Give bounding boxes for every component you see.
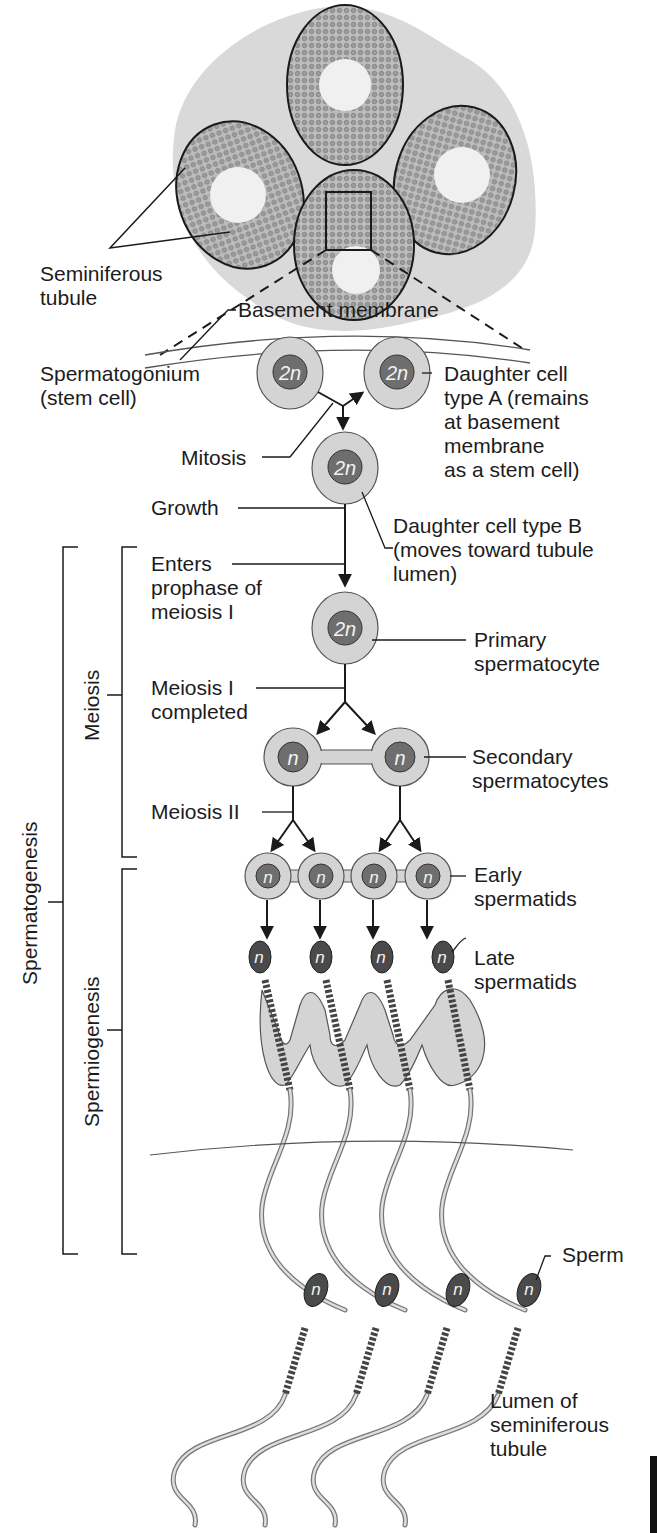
brackets — [48, 547, 137, 1254]
svg-text:n: n — [394, 747, 405, 769]
svg-text:n: n — [423, 868, 432, 887]
svg-text:n: n — [316, 868, 325, 887]
edge-bar — [650, 1456, 657, 1533]
label-daughter-cell-b: Daughter cell type B (moves toward tubul… — [393, 514, 594, 586]
label-early-spermatids: Early spermatids — [474, 863, 577, 911]
svg-text:n: n — [382, 1280, 391, 1299]
secondary-spermatocytes: n n — [264, 728, 429, 786]
svg-text:2n: 2n — [333, 618, 356, 640]
svg-text:2n: 2n — [333, 457, 356, 479]
label-secondary-spermatocytes: Secondary spermatocytes — [472, 745, 609, 793]
svg-text:2n: 2n — [278, 362, 301, 384]
lumen-boundary — [150, 1141, 573, 1155]
label-sperm: Sperm — [562, 1243, 624, 1267]
label-primary-spermatocyte: Primary spermatocyte — [474, 628, 600, 676]
svg-text:n: n — [376, 948, 385, 967]
svg-text:n: n — [263, 868, 272, 887]
spermatogonium-cell: 2n — [257, 337, 323, 409]
label-enters-prophase: Enters prophase of meiosis I — [151, 552, 262, 624]
label-seminiferous-tubule: Seminiferous tubule — [40, 262, 163, 310]
label-basement-membrane: Basement membrane — [238, 298, 439, 322]
label-mitosis: Mitosis — [181, 446, 246, 470]
svg-text:n: n — [287, 747, 298, 769]
svg-text:n: n — [254, 948, 263, 967]
label-daughter-cell-a: Daughter cell type A (remains at basemen… — [444, 362, 589, 482]
bracket-label-spermatogenesis: Spermatogenesis — [18, 822, 42, 985]
label-lumen: Lumen of seminiferous tubule — [490, 1389, 609, 1461]
late-spermatids: n n n n — [249, 941, 525, 1310]
label-meiosis-i-completed: Meiosis I completed — [151, 676, 248, 724]
svg-text:n: n — [524, 1280, 533, 1299]
label-late-spermatids: Late spermatids — [474, 946, 577, 994]
svg-text:n: n — [311, 1280, 320, 1299]
bracket-label-meiosis: Meiosis — [80, 670, 104, 741]
label-growth: Growth — [151, 496, 219, 520]
daughter-cell-b: 2n — [312, 432, 378, 504]
primary-spermatocyte-cell: 2n — [312, 592, 378, 664]
svg-text:n: n — [453, 1280, 462, 1299]
label-meiosis-ii: Meiosis II — [151, 800, 240, 824]
early-spermatids: n n n n — [245, 853, 451, 899]
bracket-label-spermiogenesis: Spermiogenesis — [80, 976, 104, 1127]
label-spermatogonium: Spermatogonium (stem cell) — [40, 362, 200, 410]
svg-text:n: n — [437, 948, 446, 967]
svg-text:n: n — [369, 868, 378, 887]
svg-text:n: n — [315, 948, 324, 967]
